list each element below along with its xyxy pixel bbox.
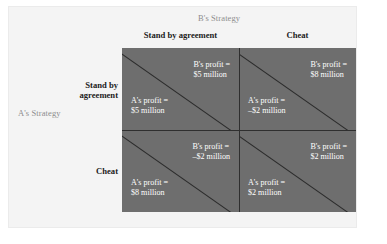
cell-b-payoff-line-2: –$2 million (192, 152, 230, 162)
cell-b-payoff-line-1: B's profit = (310, 60, 347, 70)
cell-a-payoff: A's profit = $8 million (131, 178, 168, 198)
cell-a-payoff-line-2: $2 million (248, 188, 285, 198)
cell-b-payoff: B's profit = $5 million (193, 60, 230, 80)
matrix-cell: B's profit = $5 million A's profit = $5 … (122, 48, 239, 130)
columns-axis-title: B's Strategy (198, 13, 240, 23)
cell-a-payoff-line-2: $8 million (131, 188, 168, 198)
cell-b-payoff: B's profit = $2 million (310, 142, 347, 162)
column-header-cheat: Cheat (239, 30, 356, 40)
cell-b-payoff-line-1: B's profit = (193, 60, 230, 70)
cell-a-payoff-line-1: A's profit = (248, 96, 286, 106)
cell-b-payoff: B's profit = –$2 million (192, 142, 230, 162)
row-header-line-2: agreement (44, 90, 118, 100)
cell-b-payoff: B's profit = $8 million (310, 60, 347, 80)
matrix-row-divider (122, 130, 356, 131)
cell-a-payoff: A's profit = $5 million (131, 96, 168, 116)
cell-a-payoff: A's profit = $2 million (248, 178, 285, 198)
cell-b-payoff-line-2: $8 million (310, 70, 347, 80)
row-header-stand-by-agreement: Stand by agreement (44, 80, 118, 100)
matrix-cell: B's profit = –$2 million A's profit = $8… (122, 130, 239, 212)
row-header-line-1: Cheat (44, 166, 118, 176)
payoff-matrix-figure: B's Strategy A's Strategy Stand by agree… (0, 0, 387, 244)
row-header-cheat: Cheat (44, 166, 118, 176)
cell-a-payoff-line-2: –$2 million (248, 106, 286, 116)
cell-a-payoff-line-1: A's profit = (131, 96, 168, 106)
column-header-stand-by-agreement: Stand by agreement (122, 30, 239, 40)
cell-a-payoff-line-2: $5 million (131, 106, 168, 116)
matrix-cell: B's profit = $2 million A's profit = $2 … (239, 130, 356, 212)
cell-b-payoff-line-2: $2 million (310, 152, 347, 162)
cell-b-payoff-line-1: B's profit = (310, 142, 347, 152)
matrix-cell: B's profit = $8 million A's profit = –$2… (239, 48, 356, 130)
payoff-matrix-grid: B's profit = $5 million A's profit = $5 … (122, 48, 356, 212)
cell-a-payoff-line-1: A's profit = (248, 178, 285, 188)
cell-b-payoff-line-1: B's profit = (192, 142, 230, 152)
rows-axis-title: A's Strategy (18, 108, 61, 118)
cell-b-payoff-line-2: $5 million (193, 70, 230, 80)
row-header-line-1: Stand by (44, 80, 118, 90)
cell-a-payoff-line-1: A's profit = (131, 178, 168, 188)
cell-a-payoff: A's profit = –$2 million (248, 96, 286, 116)
